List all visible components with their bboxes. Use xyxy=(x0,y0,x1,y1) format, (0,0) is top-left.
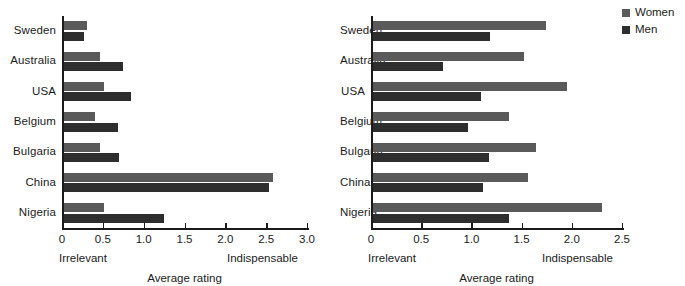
category-label-sweden: Sweden xyxy=(0,25,56,37)
bar-china-men xyxy=(64,183,269,192)
bar-nigeria-men xyxy=(373,214,510,223)
legend-label-women: Women xyxy=(635,7,674,19)
x-tick-label-1.0: 1.0 xyxy=(136,234,152,246)
x-axis-left xyxy=(62,228,309,230)
bar-belgium-men xyxy=(373,123,468,132)
category-label-bulgaria: Bulgaria xyxy=(340,146,365,158)
bar-nigeria-women xyxy=(64,203,105,212)
x-tick-mark xyxy=(266,223,267,228)
two-panel-bar-chart-figure: SwedenAustraliaUSABelgiumBulgariaChinaNi… xyxy=(0,0,685,286)
anchor-label-high-left: Indispensable xyxy=(227,253,298,265)
legend-label-men: Men xyxy=(635,24,657,36)
bar-bulgaria-men xyxy=(373,153,489,162)
legend-swatch-men-icon xyxy=(622,26,630,34)
chart-panel-right: SwedenAustraliaUSABelgiumBulgariaChinaNi… xyxy=(340,0,640,286)
bar-sweden-women xyxy=(64,21,88,30)
x-tick-mark xyxy=(144,223,145,228)
x-tick-mark xyxy=(572,223,573,228)
x-tick-label-2.5: 2.5 xyxy=(258,234,274,246)
anchor-label-high-right: Indispensable xyxy=(542,253,613,265)
bar-bulgaria-women xyxy=(64,143,101,152)
x-tick-mark xyxy=(371,223,372,228)
bar-sweden-men xyxy=(373,32,490,41)
bar-belgium-women xyxy=(64,112,95,121)
bar-china-men xyxy=(373,183,483,192)
bar-china-women xyxy=(64,173,274,182)
bar-bulgaria-women xyxy=(373,143,537,152)
legend: Women Men xyxy=(622,6,685,40)
bar-sweden-women xyxy=(373,21,547,30)
x-tick-label-1.5: 1.5 xyxy=(514,234,530,246)
bar-belgium-women xyxy=(373,112,510,121)
legend-entry-women: Women xyxy=(622,6,685,20)
bar-australia-women xyxy=(64,52,101,61)
category-label-nigeria: Nigeria xyxy=(0,207,56,219)
bar-australia-women xyxy=(373,52,525,61)
bar-china-women xyxy=(373,173,529,182)
bar-sweden-men xyxy=(64,32,84,41)
category-label-australia: Australia xyxy=(0,55,56,67)
bar-australia-men xyxy=(64,62,124,71)
category-label-china: China xyxy=(0,177,56,189)
bar-nigeria-women xyxy=(373,203,602,212)
chart-panel-left: SwedenAustraliaUSABelgiumBulgariaChinaNi… xyxy=(0,0,343,286)
plot-area-left xyxy=(62,16,307,228)
x-tick-mark xyxy=(103,223,104,228)
x-tick-mark xyxy=(522,223,523,228)
x-tick-mark xyxy=(62,223,63,228)
x-tick-label-0.5: 0.5 xyxy=(413,234,429,246)
x-tick-label-1.0: 1.0 xyxy=(463,234,479,246)
x-tick-mark xyxy=(421,223,422,228)
x-tick-label-1.5: 1.5 xyxy=(177,234,193,246)
category-label-australia: Australia xyxy=(340,55,365,67)
bar-usa-women xyxy=(64,82,105,91)
bar-usa-men xyxy=(373,92,481,101)
category-label-sweden: Sweden xyxy=(340,25,365,37)
legend-swatch-women-icon xyxy=(622,9,630,17)
category-label-usa: USA xyxy=(340,86,365,98)
bar-nigeria-men xyxy=(64,214,164,223)
x-tick-mark xyxy=(622,223,623,228)
x-tick-mark xyxy=(225,223,226,228)
category-label-belgium: Belgium xyxy=(340,116,365,128)
x-tick-label-2.5: 2.5 xyxy=(614,234,630,246)
legend-entry-men: Men xyxy=(622,23,685,37)
x-tick-label-0: 0 xyxy=(368,234,374,246)
x-axis-title-right: Average rating xyxy=(459,273,534,285)
category-label-bulgaria: Bulgaria xyxy=(0,146,56,158)
x-tick-label-0: 0 xyxy=(59,234,65,246)
x-tick-mark xyxy=(307,223,308,228)
plot-area-right xyxy=(371,16,622,228)
bar-usa-women xyxy=(373,82,568,91)
bar-usa-men xyxy=(64,92,132,101)
bar-australia-men xyxy=(373,62,443,71)
x-tick-label-3.0: 3.0 xyxy=(299,234,315,246)
x-axis-title-left: Average rating xyxy=(147,273,222,285)
x-tick-label-2.0: 2.0 xyxy=(564,234,580,246)
bar-bulgaria-men xyxy=(64,153,120,162)
x-tick-label-2.0: 2.0 xyxy=(217,234,233,246)
x-tick-mark xyxy=(471,223,472,228)
bar-belgium-men xyxy=(64,123,119,132)
category-label-china: China xyxy=(340,177,365,189)
category-label-nigeria: Nigeria xyxy=(340,207,365,219)
x-axis-right xyxy=(371,228,624,230)
category-label-usa: USA xyxy=(0,86,56,98)
category-label-belgium: Belgium xyxy=(0,116,56,128)
x-tick-mark xyxy=(185,223,186,228)
anchor-label-low-left: Irrelevant xyxy=(59,253,107,265)
x-tick-label-0.5: 0.5 xyxy=(95,234,111,246)
anchor-label-low-right: Irrelevant xyxy=(368,253,416,265)
